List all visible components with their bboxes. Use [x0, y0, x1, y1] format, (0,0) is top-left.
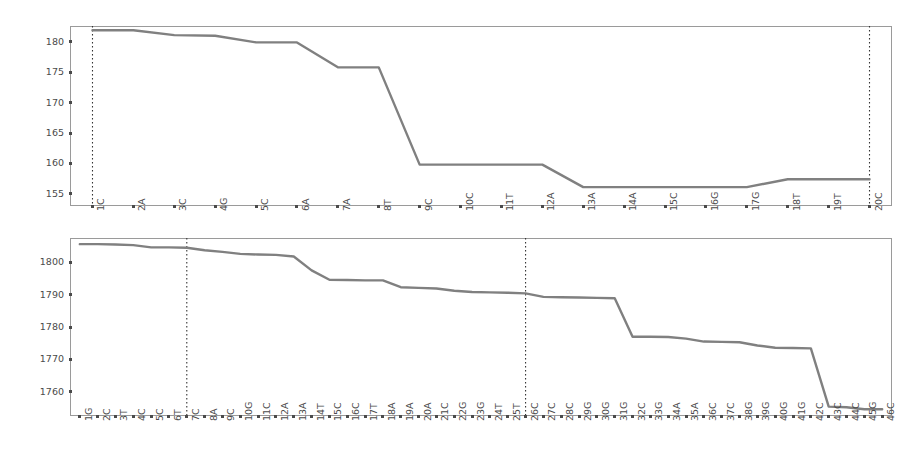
x-tick-label-4G: 4G [219, 198, 229, 211]
x-tick-label-11C: 11C [262, 402, 272, 421]
x-tick-label-37C: 37C [726, 402, 736, 421]
x-tick-mark [310, 415, 313, 418]
y-tick-mark [69, 71, 72, 74]
x-tick-mark [738, 415, 741, 418]
x-tick-mark [257, 415, 260, 418]
x-tick-mark [239, 415, 242, 418]
x-tick-label-4C: 4C [137, 408, 147, 421]
x-tick-mark [417, 415, 420, 418]
y-tick-mark [69, 162, 72, 165]
series-layer [0, 0, 922, 230]
x-tick-label-6T: 6T [173, 409, 183, 421]
x-tick-mark [809, 415, 812, 418]
x-tick-label-29G: 29G [583, 402, 593, 421]
y-tick-label: 1790 [40, 290, 64, 300]
x-tick-label-3C: 3C [178, 198, 188, 211]
x-tick-label-43C: 43C [833, 402, 843, 421]
x-tick-label-17G: 17G [751, 192, 761, 211]
y-tick-label: 175 [46, 67, 64, 77]
x-tick-mark [364, 415, 367, 418]
x-tick-mark [745, 205, 748, 208]
x-tick-label-34A: 34A [672, 402, 682, 421]
x-tick-label-20A: 20A [423, 402, 433, 421]
x-tick-mark [582, 205, 585, 208]
x-tick-label-7C: 7C [191, 408, 201, 421]
y-tick-label: 165 [46, 128, 64, 138]
x-tick-mark [274, 415, 277, 418]
x-tick-mark [471, 415, 474, 418]
y-tick-label: 1780 [40, 322, 64, 332]
x-tick-label-14T: 14T [316, 403, 326, 421]
x-tick-label-2A: 2A [137, 198, 147, 211]
x-tick-mark [221, 415, 224, 418]
y-tick-label: 1800 [40, 257, 64, 267]
x-tick-label-45G: 45G [868, 402, 878, 421]
x-tick-label-38G: 38G [744, 402, 754, 421]
y-tick-label: 180 [46, 37, 64, 47]
x-tick-label-24T: 24T [494, 403, 504, 421]
x-tick-label-46C: 46C [886, 402, 896, 421]
x-tick-label-17T: 17T [369, 403, 379, 421]
x-tick-mark [786, 205, 789, 208]
y-tick-mark [69, 390, 72, 393]
data-series-line [92, 30, 869, 187]
x-tick-label-5C: 5C [155, 408, 165, 421]
x-tick-label-6A: 6A [301, 198, 311, 211]
x-tick-label-19T: 19T [833, 193, 843, 211]
x-tick-label-28C: 28C [565, 402, 575, 421]
x-tick-label-5C: 5C [260, 198, 270, 211]
x-tick-mark [203, 415, 206, 418]
chart-panel-top: 1551601651701751801C2A3C4G5C6A7A8T9C10C1… [0, 0, 922, 230]
x-tick-label-42C: 42C [815, 402, 825, 421]
y-tick-mark [69, 40, 72, 43]
x-tick-mark [827, 205, 830, 208]
x-tick-mark [720, 415, 723, 418]
x-tick-mark [132, 205, 135, 208]
x-tick-label-22G: 22G [458, 402, 468, 421]
x-tick-mark [78, 415, 81, 418]
x-tick-mark [114, 415, 117, 418]
x-tick-mark [868, 205, 871, 208]
x-tick-mark [173, 205, 176, 208]
x-tick-mark [613, 415, 616, 418]
y-tick-mark [69, 326, 72, 329]
y-tick-mark [69, 358, 72, 361]
x-tick-mark [399, 415, 402, 418]
x-tick-label-10C: 10C [465, 192, 475, 211]
x-tick-mark [185, 415, 188, 418]
chart-panel-bottom: 176017701780179018001G2C3T4C5C6T7C8A9C10… [0, 230, 922, 461]
x-tick-label-18A: 18A [387, 402, 397, 421]
x-tick-mark [631, 415, 634, 418]
x-tick-label-19A: 19A [405, 402, 415, 421]
x-tick-mark [150, 415, 153, 418]
x-tick-mark [292, 415, 295, 418]
x-tick-mark [649, 415, 652, 418]
x-tick-label-32C: 32C [637, 402, 647, 421]
x-tick-label-36C: 36C [708, 402, 718, 421]
x-tick-mark [500, 205, 503, 208]
x-tick-mark [459, 205, 462, 208]
x-tick-mark [827, 415, 830, 418]
x-tick-label-18T: 18T [792, 193, 802, 211]
y-tick-label: 170 [46, 98, 64, 108]
x-tick-mark [524, 415, 527, 418]
y-tick-label: 160 [46, 158, 64, 168]
x-tick-mark [560, 415, 563, 418]
x-tick-label-1C: 1C [96, 198, 106, 211]
x-tick-mark [667, 415, 670, 418]
x-tick-mark [418, 205, 421, 208]
x-tick-label-11T: 11T [505, 193, 515, 211]
x-tick-mark [381, 415, 384, 418]
x-tick-label-44C: 44C [851, 402, 861, 421]
x-tick-mark [756, 415, 759, 418]
x-tick-mark [541, 205, 544, 208]
y-tick-mark [69, 101, 72, 104]
x-tick-label-1G: 1G [84, 408, 94, 421]
x-tick-label-16C: 16C [351, 402, 361, 421]
x-tick-label-12A: 12A [546, 192, 556, 211]
x-tick-mark [132, 415, 135, 418]
y-tick-mark [69, 261, 72, 264]
x-tick-mark [664, 205, 667, 208]
x-tick-mark [578, 415, 581, 418]
x-tick-label-41G: 41G [797, 402, 807, 421]
